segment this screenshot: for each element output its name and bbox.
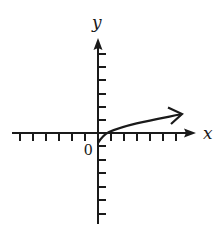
origin-label: 0 (84, 141, 93, 158)
coordinate-graph (0, 0, 222, 239)
y-axis-label: y (92, 14, 102, 31)
x-axis-label: x (203, 125, 213, 142)
